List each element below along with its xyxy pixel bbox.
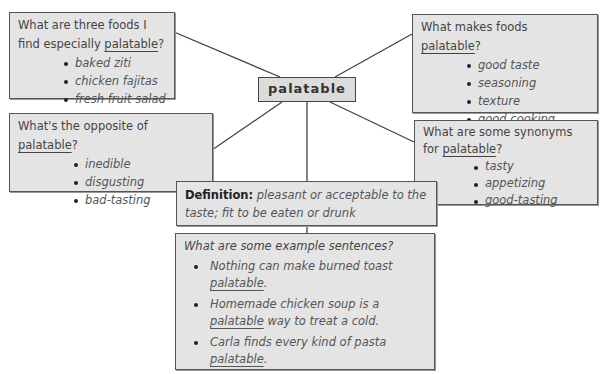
definition-box: Definition: pleasant or acceptable to th…: [176, 181, 437, 226]
example-sentence: Carla finds every kind of pasta palatabl…: [184, 334, 426, 368]
list-item: inedible: [73, 155, 204, 173]
list-item: baked ziti: [63, 54, 166, 72]
list-item: seasoning: [466, 74, 589, 92]
examples-box: What are some example sentences? Nothing…: [175, 233, 435, 370]
foods-question: What are three foods I find especially p…: [18, 16, 166, 54]
list-item: tasty: [473, 158, 589, 175]
synonyms-box: What are some synonyms for palatable? ta…: [414, 120, 598, 205]
foods-box: What are three foods I find especially p…: [9, 12, 175, 99]
list-item: good taste: [466, 56, 589, 74]
list-item: good-tasting: [473, 192, 589, 209]
makes-box: What makes foods palatable? good taste s…: [412, 14, 598, 113]
list-item: appetizing: [473, 175, 589, 192]
definition-label: Definition:: [185, 188, 253, 202]
examples-question: What are some example sentences?: [184, 237, 426, 256]
list-item: fresh fruit salad: [63, 90, 166, 108]
example-sentence: Homemade chicken soup is a palatable way…: [184, 296, 426, 330]
synonyms-question: What are some synonyms for palatable?: [423, 124, 589, 158]
makes-question: What makes foods palatable?: [421, 18, 589, 56]
list-item: chicken fajitas: [63, 72, 166, 90]
example-sentence: Nothing can make burned toast palatable.: [184, 258, 426, 292]
center-word: palatable: [258, 77, 356, 102]
opposite-question: What's the opposite of palatable?: [18, 117, 204, 155]
list-item: texture: [466, 92, 589, 110]
